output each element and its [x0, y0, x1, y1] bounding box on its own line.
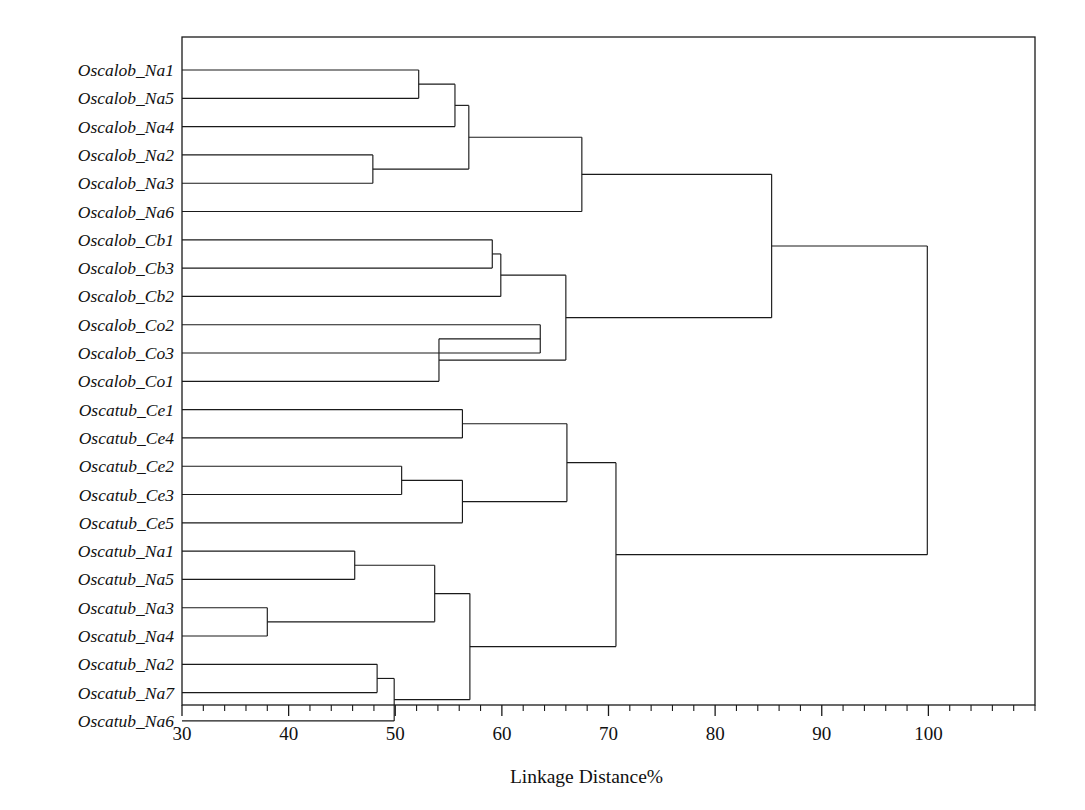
leaf-label: Oscatub_Na1	[78, 541, 174, 561]
x-axis-title: Linkage Distance%	[510, 766, 663, 787]
leaf-label: Oscatub_Na3	[78, 598, 175, 618]
leaf-label: Oscatub_Ce4	[79, 428, 175, 448]
leaf-label: Oscatub_Na4	[78, 626, 175, 646]
leaf-label: Oscatub_Ce5	[79, 513, 175, 533]
leaf-label: Oscalob_Co3	[78, 343, 175, 363]
leaf-label: Oscalob_Cb3	[78, 258, 175, 278]
x-axis-tick-label: 40	[279, 723, 298, 744]
leaf-label: Oscalob_Co1	[78, 371, 174, 391]
x-axis-tick-label: 90	[812, 723, 831, 744]
leaf-label: Oscatub_Na7	[78, 683, 176, 703]
dendrogram-figure: 30405060708090100Linkage Distance%Oscalo…	[0, 0, 1085, 810]
x-axis-tick-label: 80	[706, 723, 725, 744]
leaf-label: Oscatub_Ce2	[79, 456, 175, 476]
leaf-label: Oscalob_Co2	[78, 315, 175, 335]
leaf-label: Oscalob_Na6	[78, 202, 175, 222]
leaf-label: Oscalob_Na4	[78, 117, 175, 137]
x-axis-tick-label: 50	[386, 723, 405, 744]
leaf-label: Oscatub_Ce3	[79, 485, 175, 505]
leaf-label: Oscatub_Na2	[78, 654, 175, 674]
x-axis-tick-label: 70	[599, 723, 618, 744]
leaf-label: Oscalob_Cb1	[78, 230, 174, 250]
leaf-label: Oscatub_Na5	[78, 569, 175, 589]
leaf-label: Oscalob_Na2	[78, 145, 175, 165]
leaf-label: Oscalob_Cb2	[78, 286, 175, 306]
x-axis-tick-label: 60	[492, 723, 511, 744]
leaf-label: Oscatub_Na6	[78, 711, 175, 731]
dendrogram-canvas: 30405060708090100Linkage Distance%Oscalo…	[0, 0, 1085, 810]
leaf-label: Oscalob_Na5	[78, 88, 175, 108]
leaf-label: Oscalob_Na3	[78, 173, 175, 193]
x-axis-tick-label: 100	[914, 723, 943, 744]
leaf-label: Oscatub_Ce1	[79, 400, 174, 420]
x-axis-tick-label: 30	[173, 723, 192, 744]
leaf-label: Oscalob_Na1	[78, 60, 174, 80]
